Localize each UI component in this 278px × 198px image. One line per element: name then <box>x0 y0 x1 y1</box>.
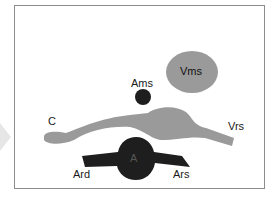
ars-label: Ars <box>173 168 190 180</box>
vrs-label: Vrs <box>228 120 245 132</box>
a-label: A <box>130 152 138 164</box>
side-arrow-icon <box>0 123 11 151</box>
ams-shape <box>135 89 151 105</box>
diagram-canvas: Vms Ams C Vrs A Ard Ars <box>0 0 278 198</box>
ard-label: Ard <box>73 168 90 180</box>
c-label: C <box>48 115 56 127</box>
ams-label: Ams <box>131 77 154 89</box>
vms-label: Vms <box>180 65 203 77</box>
